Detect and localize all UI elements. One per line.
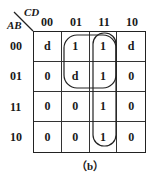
kmap-cell: 1 xyxy=(90,92,118,122)
row-variable-label: AB xyxy=(7,19,22,31)
kmap-cell: d xyxy=(34,32,62,62)
figure-caption: （b） xyxy=(70,157,110,173)
kmap-cell: 1 xyxy=(90,122,118,152)
col-header: 00 xyxy=(33,15,61,30)
kmap-cell: 1 xyxy=(62,32,90,62)
kmap-cell: 0 xyxy=(117,92,145,122)
col-header: 11 xyxy=(90,15,118,30)
kmap-cell: 0 xyxy=(62,122,90,152)
kmap-cell: d xyxy=(62,62,90,92)
kmap-cell: 1 xyxy=(90,32,118,62)
kmap-grid: d 1 1 d 0 d 1 0 0 0 1 0 0 0 1 0 xyxy=(33,31,146,153)
kmap-cell: 0 xyxy=(117,62,145,92)
col-header: 01 xyxy=(62,15,90,30)
kmap-cell: d xyxy=(117,32,145,62)
kmap-cell: 0 xyxy=(34,92,62,122)
col-header: 10 xyxy=(118,15,146,30)
kmap-cell: 0 xyxy=(117,122,145,152)
kmap-cell: 0 xyxy=(34,62,62,92)
kmap-cell: 0 xyxy=(62,92,90,122)
kmap-cell: 1 xyxy=(90,62,118,92)
kmap-cell: 0 xyxy=(34,122,62,152)
